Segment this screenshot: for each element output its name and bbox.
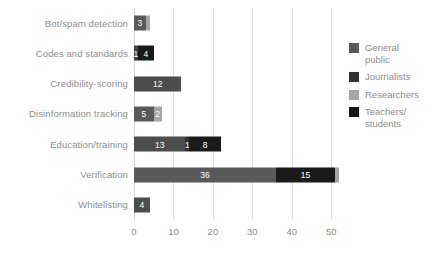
- legend-label: General public: [365, 42, 399, 65]
- category-label: Education/training: [50, 139, 128, 150]
- legend-swatch-icon: [349, 43, 359, 53]
- category-label: Verification: [80, 169, 128, 180]
- category-label: Whitelisting: [78, 199, 128, 210]
- bar-segment[interactable]: 15: [276, 167, 335, 182]
- bar-value-label: 36: [200, 170, 209, 179]
- x-tick-label: 30: [247, 226, 258, 237]
- bar-value-label: 8: [203, 140, 208, 149]
- x-tick-label: 10: [168, 226, 179, 237]
- bar-segment[interactable]: [335, 167, 339, 182]
- bar-track: 14: [134, 46, 154, 61]
- legend-item[interactable]: Teachers/ students: [349, 106, 445, 129]
- stacked-bar-chart: Bot/spam detection3Codes and standards14…: [0, 0, 447, 260]
- category-label: Credibility-scoring: [51, 78, 128, 89]
- bar-value-label: 4: [143, 49, 148, 58]
- plot-area: Bot/spam detection3Codes and standards14…: [134, 8, 334, 220]
- x-axis: 01020304050: [134, 222, 334, 244]
- bar-row: Codes and standards14: [134, 38, 334, 68]
- bar-segment[interactable]: [146, 16, 150, 31]
- bar-value-label: 15: [301, 170, 310, 179]
- legend-label: Teachers/ students: [365, 106, 406, 129]
- bar-track: 3615: [134, 167, 339, 182]
- x-tick-label: 0: [131, 226, 136, 237]
- bar-track: 1318: [134, 137, 221, 152]
- bar-segment[interactable]: 36: [134, 167, 276, 182]
- bar-value-label: 4: [140, 201, 145, 210]
- bar-track: 12: [134, 76, 181, 91]
- legend-item[interactable]: Researchers: [349, 89, 445, 101]
- legend-label: Researchers: [365, 89, 419, 101]
- bar-track: 3: [134, 16, 150, 31]
- bar-value-label: 12: [153, 79, 162, 88]
- legend-label: Journalists: [365, 71, 410, 83]
- bar-segment[interactable]: 3: [134, 16, 146, 31]
- bar-segment[interactable]: 8: [189, 137, 221, 152]
- legend-item[interactable]: General public: [349, 42, 445, 65]
- bar-segment[interactable]: 12: [134, 76, 181, 91]
- x-tick-label: 50: [326, 226, 337, 237]
- bar-row: Whitelisting4: [134, 190, 334, 220]
- bar-row: Disinformation tracking52: [134, 99, 334, 129]
- bar-segment[interactable]: 2: [154, 106, 162, 121]
- bar-value-label: 2: [155, 110, 160, 119]
- legend-swatch-icon: [349, 72, 359, 82]
- bar-segment[interactable]: 4: [138, 46, 154, 61]
- bar-row: Credibility-scoring12: [134, 69, 334, 99]
- x-tick-label: 40: [286, 226, 297, 237]
- bar-value-label: 13: [155, 140, 164, 149]
- category-label: Disinformation tracking: [29, 108, 128, 119]
- chart-legend: General publicJournalistsResearchersTeac…: [349, 42, 445, 135]
- bar-segment[interactable]: 5: [134, 106, 154, 121]
- bar-track: 52: [134, 106, 162, 121]
- bar-segment[interactable]: 4: [134, 197, 150, 212]
- bar-value-label: 5: [141, 110, 146, 119]
- category-label: Bot/spam detection: [45, 18, 128, 29]
- category-label: Codes and standards: [36, 48, 128, 59]
- bar-value-label: 3: [138, 19, 143, 28]
- bar-row: Verification3615: [134, 159, 334, 189]
- legend-item[interactable]: Journalists: [349, 71, 445, 83]
- bar-track: 4: [134, 197, 150, 212]
- bar-row: Bot/spam detection3: [134, 8, 334, 38]
- x-tick-label: 20: [208, 226, 219, 237]
- legend-swatch-icon: [349, 107, 359, 117]
- bar-segment[interactable]: 13: [134, 137, 185, 152]
- legend-swatch-icon: [349, 90, 359, 100]
- bar-row: Education/training1318: [134, 129, 334, 159]
